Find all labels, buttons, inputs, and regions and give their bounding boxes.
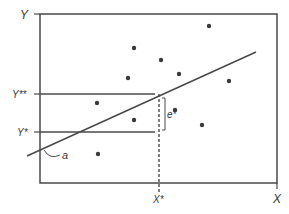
y-star-label: Y* [17,127,29,138]
data-point [159,58,163,62]
data-point [132,118,136,122]
data-point [177,72,181,76]
data-point [227,79,231,83]
intercept-pointer [44,150,60,157]
regression-diagram: Y Y** Y* a e* X* X [0,0,289,214]
data-point [132,46,136,50]
data-point [200,123,204,127]
y-axis-label: Y [20,8,29,22]
data-point [126,76,130,80]
data-point [207,24,211,28]
error-bracket [162,98,165,130]
y-double-star-label: Y** [12,89,28,100]
scatter-points [95,24,231,156]
data-point [95,101,99,105]
plot-frame [40,14,277,183]
intercept-label: a [62,149,68,161]
x-axis-label: X [272,192,282,206]
data-point [96,152,100,156]
regression-line [27,52,256,156]
error-label: e* [167,109,178,120]
x-star-label: X* [152,194,165,205]
